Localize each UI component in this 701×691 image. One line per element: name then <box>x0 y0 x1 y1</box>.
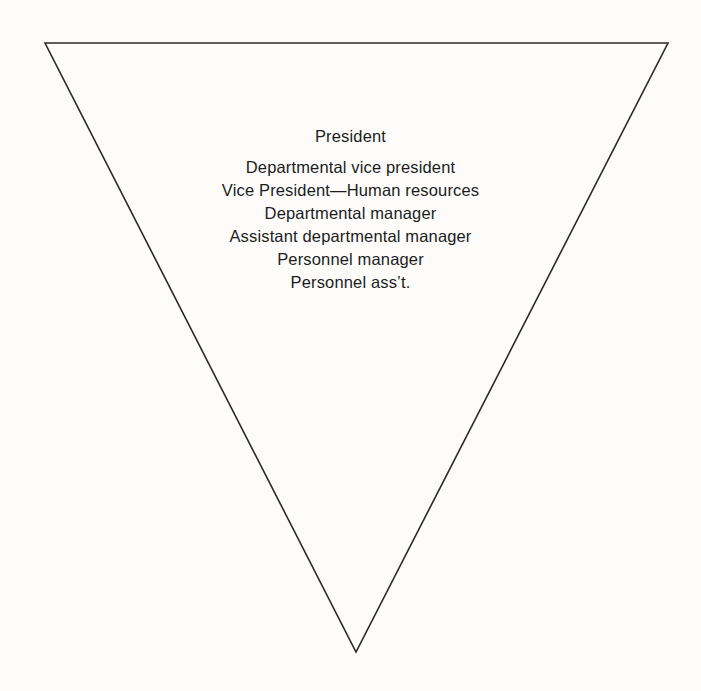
inverted-triangle-outline <box>45 43 668 652</box>
triangle-shape <box>0 0 701 691</box>
figure-root: President Departmental vice president Vi… <box>0 0 701 691</box>
